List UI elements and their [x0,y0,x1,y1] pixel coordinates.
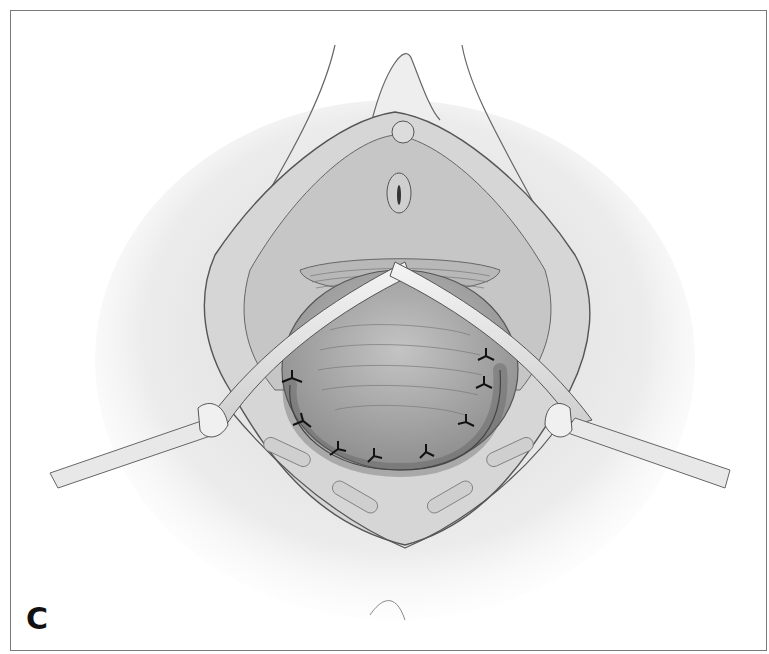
panel-label: C [26,604,48,634]
surgical-illustration [0,0,769,654]
clitoral-hood [372,54,440,120]
clitoris [392,121,414,143]
urethral-opening [397,185,401,205]
